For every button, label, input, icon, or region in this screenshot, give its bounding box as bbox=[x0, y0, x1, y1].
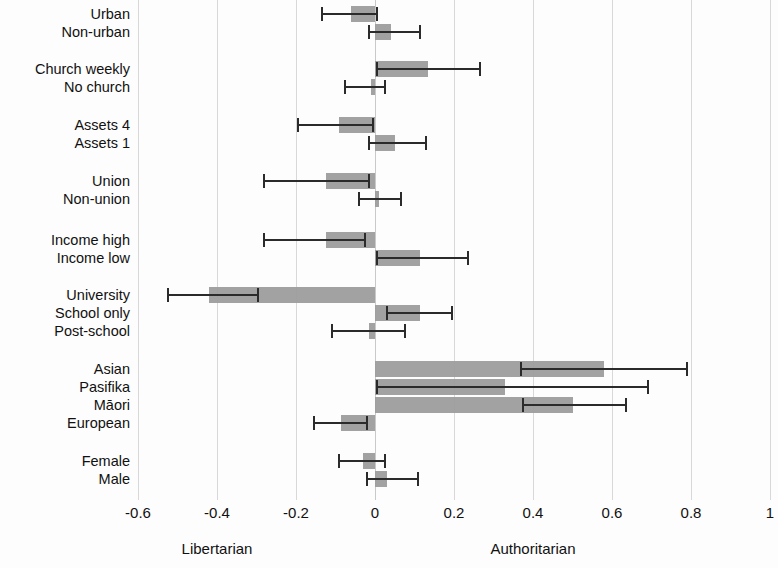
x-tick-label: 0.8 bbox=[681, 504, 702, 521]
confidence-interval-line bbox=[314, 422, 367, 424]
confidence-interval-line bbox=[168, 294, 259, 296]
x-tick-label: 0 bbox=[371, 504, 379, 521]
y-axis-label-non-union: Non-union bbox=[0, 191, 130, 207]
confidence-interval-cap-high bbox=[686, 362, 688, 376]
confidence-interval-line bbox=[377, 257, 468, 259]
confidence-interval-cap-low bbox=[297, 118, 299, 132]
chart-row bbox=[138, 468, 770, 490]
axis-caption-right: Authoritarian bbox=[490, 540, 575, 557]
confidence-interval-cap-low bbox=[313, 416, 315, 430]
confidence-interval-line bbox=[369, 31, 420, 33]
y-axis-label-assets-1: Assets 1 bbox=[0, 135, 130, 151]
chart-row bbox=[138, 412, 770, 434]
confidence-interval-cap-high bbox=[364, 233, 366, 247]
y-axis-label-income-high: Income high bbox=[0, 232, 130, 248]
confidence-interval-cap-low bbox=[338, 454, 340, 468]
confidence-interval-cap-low bbox=[376, 251, 378, 265]
confidence-interval-line bbox=[369, 142, 426, 144]
confidence-interval-cap-low bbox=[366, 472, 368, 486]
confidence-interval-cap-low bbox=[520, 362, 522, 376]
y-axis-label-school-only: School only bbox=[0, 305, 130, 321]
confidence-interval-cap-high bbox=[384, 80, 386, 94]
confidence-interval-cap-low bbox=[522, 398, 524, 412]
chart-row bbox=[138, 188, 770, 210]
confidence-interval-line bbox=[322, 13, 377, 15]
confidence-interval-cap-high bbox=[257, 288, 259, 302]
confidence-interval-cap-low bbox=[386, 306, 388, 320]
chart-figure: UrbanNon-urbanChurch weeklyNo churchAsse… bbox=[0, 0, 778, 568]
confidence-interval-cap-high bbox=[467, 251, 469, 265]
confidence-interval-line bbox=[345, 86, 385, 88]
x-axis-ticks: -0.6-0.4-0.200.20.40.60.81 bbox=[138, 504, 770, 534]
y-axis-label-university: University bbox=[0, 287, 130, 303]
x-tick-label: 0.6 bbox=[602, 504, 623, 521]
confidence-interval-cap-high bbox=[625, 398, 627, 412]
confidence-interval-cap-low bbox=[368, 136, 370, 150]
x-tick-label: -0.2 bbox=[283, 504, 309, 521]
confidence-interval-line bbox=[264, 239, 365, 241]
confidence-interval-line bbox=[523, 404, 626, 406]
confidence-interval-cap-low bbox=[376, 380, 378, 394]
y-axis-label-female: Female bbox=[0, 453, 130, 469]
y-axis-label-urban: Urban bbox=[0, 6, 130, 22]
chart-row bbox=[138, 76, 770, 98]
chart-row bbox=[138, 132, 770, 154]
y-axis-label-union: Union bbox=[0, 173, 130, 189]
confidence-interval-cap-high bbox=[376, 7, 378, 21]
confidence-interval-cap-high bbox=[384, 454, 386, 468]
x-tick-label: 0.2 bbox=[444, 504, 465, 521]
y-axis-label-no-church: No church bbox=[0, 79, 130, 95]
confidence-interval-cap-low bbox=[321, 7, 323, 21]
plot-area bbox=[138, 0, 770, 500]
confidence-interval-cap-low bbox=[376, 62, 378, 76]
confidence-interval-cap-high bbox=[366, 416, 368, 430]
x-tick-label: -0.6 bbox=[125, 504, 151, 521]
y-axis-label-church-weekly: Church weekly bbox=[0, 61, 130, 77]
confidence-interval-cap-high bbox=[419, 25, 421, 39]
confidence-interval-line bbox=[264, 180, 369, 182]
confidence-interval-cap-low bbox=[344, 80, 346, 94]
y-axis-label-asian: Asian bbox=[0, 361, 130, 377]
confidence-interval-cap-low bbox=[368, 25, 370, 39]
chart-row bbox=[138, 21, 770, 43]
x-tick-label: 1 bbox=[766, 504, 774, 521]
confidence-interval-line bbox=[298, 124, 373, 126]
confidence-interval-line bbox=[339, 460, 384, 462]
x-tick-label: -0.4 bbox=[204, 504, 230, 521]
confidence-interval-line bbox=[367, 478, 418, 480]
confidence-interval-cap-high bbox=[479, 62, 481, 76]
confidence-interval-cap-high bbox=[425, 136, 427, 150]
confidence-interval-cap-high bbox=[404, 324, 406, 338]
y-axis-label-european: European bbox=[0, 415, 130, 431]
axis-caption-left: Libertarian bbox=[182, 540, 253, 557]
confidence-interval-cap-low bbox=[263, 174, 265, 188]
confidence-interval-line bbox=[332, 330, 405, 332]
confidence-interval-line bbox=[387, 312, 452, 314]
confidence-interval-line bbox=[359, 198, 400, 200]
chart-row bbox=[138, 247, 770, 269]
y-axis-label-post-school: Post-school bbox=[0, 323, 130, 339]
confidence-interval-cap-high bbox=[451, 306, 453, 320]
confidence-interval-line bbox=[521, 368, 687, 370]
y-axis-label-non-urban: Non-urban bbox=[0, 24, 130, 40]
confidence-interval-cap-high bbox=[400, 192, 402, 206]
confidence-interval-cap-low bbox=[358, 192, 360, 206]
confidence-interval-cap-low bbox=[331, 324, 333, 338]
y-axis-label-pasifika: Pasifika bbox=[0, 379, 130, 395]
y-axis-label-income-low: Income low bbox=[0, 250, 130, 266]
y-axis-label-assets-4: Assets 4 bbox=[0, 117, 130, 133]
y-axis-label-male: Male bbox=[0, 471, 130, 487]
y-axis-label-m-ori: Māori bbox=[0, 397, 130, 413]
gridline-1 bbox=[770, 0, 771, 500]
confidence-interval-cap-high bbox=[417, 472, 419, 486]
confidence-interval-cap-high bbox=[647, 380, 649, 394]
y-axis-category-labels: UrbanNon-urbanChurch weeklyNo churchAsse… bbox=[0, 0, 130, 500]
confidence-interval-cap-high bbox=[372, 118, 374, 132]
confidence-interval-cap-low bbox=[263, 233, 265, 247]
chart-row bbox=[138, 320, 770, 342]
confidence-interval-line bbox=[377, 386, 648, 388]
confidence-interval-cap-low bbox=[167, 288, 169, 302]
confidence-interval-line bbox=[377, 68, 480, 70]
x-tick-label: 0.4 bbox=[523, 504, 544, 521]
confidence-interval-cap-high bbox=[368, 174, 370, 188]
